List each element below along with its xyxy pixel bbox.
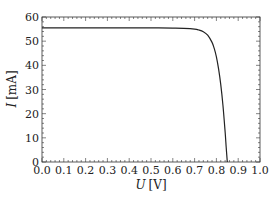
x-tick-label: 0.8 — [208, 164, 226, 177]
x-tick-label: 0.3 — [99, 164, 117, 177]
axis-ticks — [42, 17, 260, 162]
y-tick-label: 0 — [32, 156, 39, 169]
x-tick-label: 0.7 — [186, 164, 204, 177]
plot-frame — [42, 17, 260, 162]
x-tick-label: 0.4 — [120, 164, 138, 177]
x-tick-label: 0.1 — [55, 164, 73, 177]
x-tick-labels: 0.00.10.20.30.40.50.60.70.80.91.0 — [33, 164, 269, 177]
y-tick-label: 30 — [25, 84, 39, 97]
x-tick-label: 0.2 — [77, 164, 95, 177]
x-tick-label: 0.9 — [229, 164, 247, 177]
y-tick-labels: 0102030405060 — [25, 11, 39, 169]
y-tick-label: 40 — [25, 59, 39, 72]
iv-chart: 0.00.10.20.30.40.50.60.70.80.91.0 010203… — [0, 0, 279, 198]
x-tick-label: 0.5 — [142, 164, 160, 177]
y-tick-label: 20 — [25, 108, 39, 121]
data-line-iv-curve — [42, 28, 227, 162]
y-tick-label: 60 — [25, 11, 39, 24]
y-axis-label: I[mA] — [5, 70, 19, 108]
x-axis-label: U[V] — [135, 178, 166, 192]
y-tick-label: 50 — [25, 35, 39, 48]
y-tick-label: 10 — [25, 132, 39, 145]
x-tick-label: 0.6 — [164, 164, 182, 177]
x-tick-label: 1.0 — [251, 164, 269, 177]
